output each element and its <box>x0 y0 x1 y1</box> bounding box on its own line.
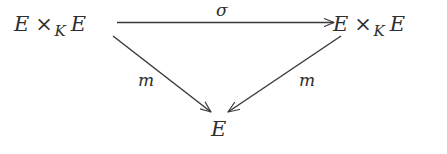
edge-label-m-left: m <box>138 72 154 89</box>
edge-label-sigma: σ <box>216 2 228 19</box>
node-target-base: E <box>333 12 348 36</box>
node-source-second: E <box>71 12 86 36</box>
arrow-m-right <box>228 36 341 112</box>
node-target-subscript: K <box>373 22 385 40</box>
node-fiber-product-source: E×KE <box>14 14 86 39</box>
node-source-base: E <box>14 12 29 36</box>
commutative-diagram: E×KE E×KE E σ m m <box>0 0 447 154</box>
node-target-second: E <box>390 12 405 36</box>
arrow-m-left <box>113 36 211 112</box>
node-target-times: × <box>353 12 373 36</box>
edge-label-m-right: m <box>299 72 315 89</box>
node-source-subscript: K <box>54 22 66 40</box>
node-curve-object: E <box>211 119 226 140</box>
node-source-times: × <box>34 12 54 36</box>
node-fiber-product-target: E×KE <box>333 14 405 39</box>
